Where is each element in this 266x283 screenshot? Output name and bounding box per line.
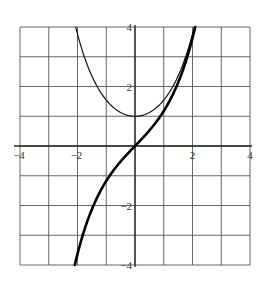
x-tick-label: 4 — [247, 149, 253, 161]
x-tick-label: −2 — [71, 149, 83, 161]
x-tick-label: −4 — [13, 149, 25, 161]
y-tick-label: 2 — [127, 81, 133, 93]
chart-canvas: −4−22442−2−4 — [0, 0, 266, 283]
axes — [14, 25, 252, 267]
y-tick-label: −4 — [120, 259, 132, 271]
y-tick-label: −2 — [120, 200, 132, 212]
x-tick-label: 2 — [190, 149, 196, 161]
y-tick-label: 4 — [127, 21, 133, 33]
